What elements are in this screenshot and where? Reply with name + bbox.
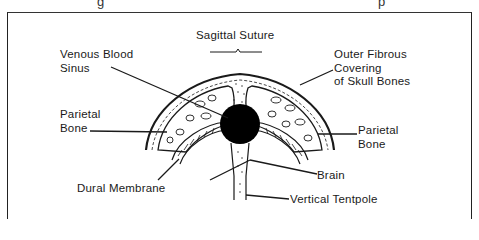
label-line: Venous Blood [60,48,133,60]
label-sagittal-suture: Sagittal Suture [196,29,274,43]
label-venous-blood-sinus: Venous Blood Sinus [60,48,133,75]
label-line: Bone [60,122,88,134]
label-line: Covering [334,62,382,74]
label-line: Sinus [60,62,90,74]
label-line: Bone [358,138,386,150]
label-parietal-bone-left: Parietal Bone [60,108,101,135]
label-dural-membrane: Dural Membrane [77,182,165,196]
label-brain: Brain [317,169,345,183]
label-line: Outer Fibrous [334,48,407,60]
label-vertical-tentpole: Vertical Tentpole [290,193,378,207]
label-parietal-bone-right: Parietal Bone [358,124,399,151]
label-line: Parietal [60,108,101,120]
label-line: Parietal [358,124,399,136]
venous-blood-sinus [220,104,260,144]
label-outer-fibrous-covering: Outer Fibrous Covering of Skull Bones [334,48,410,89]
label-line: of Skull Bones [334,75,410,87]
